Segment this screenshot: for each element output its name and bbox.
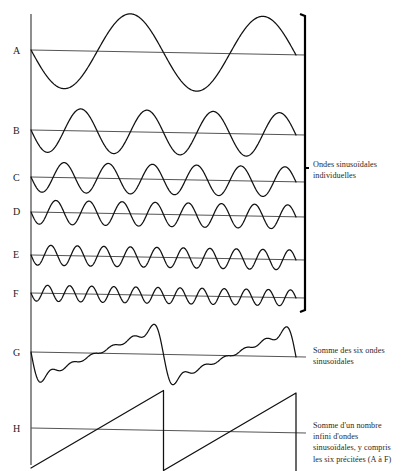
annotation-line: individuelles — [313, 170, 409, 181]
wave-label-g: G — [13, 347, 20, 358]
wave-curve-A — [31, 14, 296, 91]
individual-waves-bracket — [300, 14, 305, 312]
wave-label-c: C — [13, 172, 20, 183]
wave-curve-H — [31, 391, 296, 471]
baseline-H — [31, 428, 306, 433]
wave-curve-D — [31, 200, 296, 228]
annotation-individual-sine-waves: Ondes sinusoïdalesindividuelles — [313, 159, 409, 181]
wave-label-h: H — [13, 423, 20, 434]
fourier-series-figure: ABCDEFGHOndes sinusoïdalesindividuellesS… — [0, 0, 409, 471]
annotation-sum-of-infinite-sine-waves: Somme d'un nombreinfini d'ondessinusoïda… — [313, 420, 409, 465]
wave-curve-E — [31, 245, 296, 269]
annotation-line: infini d'ondes — [313, 431, 409, 442]
wave-label-b: B — [13, 125, 20, 136]
annotation-line: Ondes sinusoïdales — [313, 159, 409, 170]
wave-label-f: F — [13, 288, 19, 299]
baseline-A — [31, 50, 306, 55]
annotation-line: Somme d'un nombre — [313, 420, 409, 431]
baseline-G — [31, 352, 306, 357]
annotation-line: Somme des six ondes — [313, 345, 409, 356]
wave-label-e: E — [13, 249, 19, 260]
baseline-E — [31, 255, 306, 260]
annotation-line: sinusoïdales, y compris — [313, 442, 409, 453]
baseline-C — [31, 177, 306, 182]
annotation-sum-of-six-sine-waves: Somme des six ondessinusoïdales — [313, 345, 409, 367]
wave-plot-svg — [0, 0, 409, 471]
wave-curve-B — [31, 109, 296, 156]
wave-curve-C — [31, 163, 296, 197]
wave-curve-F — [31, 285, 296, 305]
annotation-line: les six précitées (A à F) — [313, 454, 409, 465]
wave-curve-G — [31, 324, 296, 384]
annotation-line: sinusoïdales — [313, 356, 409, 367]
wave-label-a: A — [13, 45, 20, 56]
baseline-D — [31, 212, 306, 217]
wave-label-d: D — [13, 206, 20, 217]
